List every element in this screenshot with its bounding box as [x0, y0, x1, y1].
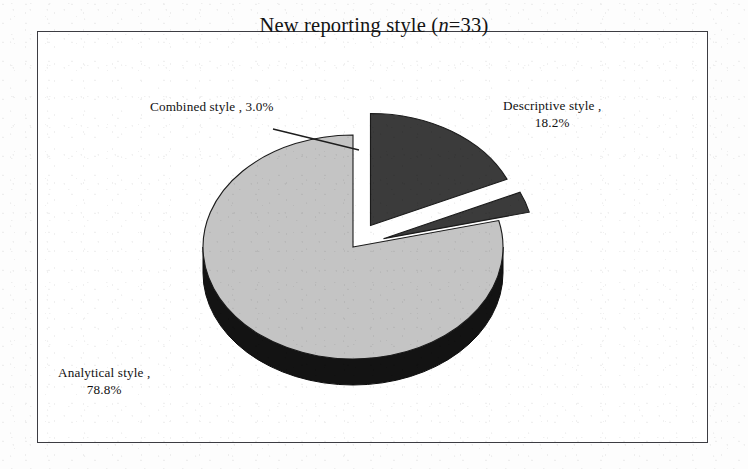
pie-label-analytical-line1: Analytical style ,	[58, 365, 150, 380]
pie-label-analytical-line2: 78.8%	[58, 382, 150, 399]
pie-label-analytical: Analytical style , 78.8%	[58, 365, 150, 398]
pie-label-descriptive-line2: 18.2%	[503, 115, 601, 132]
pie-label-combined: Combined style , 3.0%	[150, 99, 274, 116]
pie-label-descriptive-line1: Descriptive style ,	[503, 98, 601, 113]
pie-label-descriptive: Descriptive style , 18.2%	[503, 98, 601, 131]
pie-label-combined-text: Combined style , 3.0%	[150, 99, 274, 114]
figure-root: New reporting style (n=33) Combined styl…	[0, 0, 748, 469]
